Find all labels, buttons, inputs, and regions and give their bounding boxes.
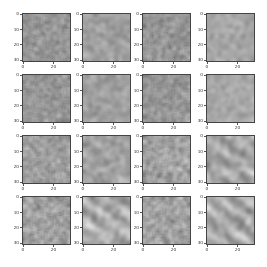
- x-tick-label: 20: [167, 125, 179, 130]
- y-tick-label: 0: [67, 11, 79, 16]
- x-tick-mark: [113, 245, 114, 247]
- y-tick-label: 10: [191, 210, 203, 215]
- y-tick-label: 30: [127, 179, 139, 184]
- y-tick-label: 30: [67, 179, 79, 184]
- y-tick-label: 0: [127, 194, 139, 199]
- grayscale-image: [23, 136, 70, 183]
- x-tick-label: 20: [107, 125, 119, 130]
- x-tick-label: 0: [201, 186, 213, 191]
- y-tick-mark: [140, 29, 142, 30]
- y-tick-label: 10: [7, 27, 19, 32]
- y-tick-label: 20: [7, 103, 19, 108]
- x-tick-label: 20: [167, 247, 179, 252]
- y-tick-label: 10: [7, 210, 19, 215]
- x-tick-mark: [83, 62, 84, 64]
- y-tick-label: 20: [127, 225, 139, 230]
- y-tick-label: 20: [7, 164, 19, 169]
- grayscale-image: [207, 14, 254, 61]
- y-tick-mark: [20, 121, 22, 122]
- y-tick-mark: [204, 75, 206, 76]
- y-tick-label: 10: [191, 149, 203, 154]
- grayscale-image: [143, 197, 190, 244]
- y-tick-mark: [140, 105, 142, 106]
- y-tick-mark: [140, 75, 142, 76]
- y-tick-label: 0: [191, 133, 203, 138]
- y-tick-label: 10: [67, 149, 79, 154]
- y-tick-mark: [140, 60, 142, 61]
- y-tick-label: 0: [191, 11, 203, 16]
- x-tick-label: 0: [137, 64, 149, 69]
- y-tick-label: 10: [7, 149, 19, 154]
- y-tick-mark: [20, 14, 22, 15]
- y-tick-mark: [140, 151, 142, 152]
- grayscale-image: [83, 14, 130, 61]
- x-tick-mark: [143, 245, 144, 247]
- x-tick-label: 0: [17, 64, 29, 69]
- x-tick-label: 20: [167, 64, 179, 69]
- y-tick-label: 10: [7, 88, 19, 93]
- image-panel-r3c2: [142, 196, 191, 245]
- y-tick-mark: [20, 166, 22, 167]
- y-tick-mark: [80, 166, 82, 167]
- x-tick-mark: [173, 123, 174, 125]
- y-tick-label: 20: [127, 103, 139, 108]
- x-tick-mark: [23, 123, 24, 125]
- y-tick-mark: [20, 151, 22, 152]
- y-tick-label: 10: [191, 88, 203, 93]
- x-tick-label: 20: [107, 247, 119, 252]
- x-tick-mark: [113, 184, 114, 186]
- x-tick-label: 20: [231, 247, 243, 252]
- y-tick-label: 0: [127, 11, 139, 16]
- x-tick-label: 0: [201, 247, 213, 252]
- y-tick-label: 30: [191, 240, 203, 245]
- y-tick-label: 20: [7, 42, 19, 47]
- x-tick-mark: [143, 62, 144, 64]
- y-tick-label: 0: [67, 133, 79, 138]
- y-tick-label: 0: [127, 133, 139, 138]
- y-tick-mark: [80, 90, 82, 91]
- y-tick-mark: [80, 44, 82, 45]
- y-tick-label: 10: [67, 210, 79, 215]
- x-tick-label: 20: [107, 64, 119, 69]
- y-tick-label: 30: [191, 179, 203, 184]
- y-tick-mark: [80, 75, 82, 76]
- y-tick-label: 30: [127, 118, 139, 123]
- y-tick-mark: [20, 197, 22, 198]
- x-tick-mark: [143, 184, 144, 186]
- grayscale-image: [207, 197, 254, 244]
- y-tick-mark: [140, 166, 142, 167]
- x-tick-mark: [23, 184, 24, 186]
- x-tick-label: 0: [17, 247, 29, 252]
- y-tick-mark: [204, 212, 206, 213]
- y-tick-label: 20: [191, 103, 203, 108]
- y-tick-mark: [20, 243, 22, 244]
- y-tick-mark: [80, 60, 82, 61]
- x-tick-mark: [83, 123, 84, 125]
- x-tick-label: 20: [231, 125, 243, 130]
- grayscale-image: [143, 136, 190, 183]
- y-tick-mark: [20, 212, 22, 213]
- y-tick-mark: [80, 227, 82, 228]
- y-tick-mark: [80, 29, 82, 30]
- image-panel-r0c2: [142, 13, 191, 62]
- y-tick-label: 30: [127, 240, 139, 245]
- y-tick-mark: [140, 182, 142, 183]
- x-tick-label: 20: [47, 64, 59, 69]
- y-tick-label: 0: [67, 194, 79, 199]
- y-tick-mark: [20, 105, 22, 106]
- y-tick-label: 30: [191, 118, 203, 123]
- y-tick-label: 30: [127, 57, 139, 62]
- y-tick-label: 30: [7, 118, 19, 123]
- y-tick-mark: [204, 227, 206, 228]
- y-tick-label: 20: [67, 225, 79, 230]
- x-tick-mark: [83, 184, 84, 186]
- y-tick-mark: [20, 75, 22, 76]
- grayscale-image: [83, 75, 130, 122]
- x-tick-mark: [207, 62, 208, 64]
- x-tick-mark: [23, 62, 24, 64]
- y-tick-label: 20: [127, 164, 139, 169]
- y-tick-label: 20: [67, 103, 79, 108]
- y-tick-label: 10: [127, 149, 139, 154]
- x-tick-label: 0: [137, 247, 149, 252]
- x-tick-label: 20: [47, 125, 59, 130]
